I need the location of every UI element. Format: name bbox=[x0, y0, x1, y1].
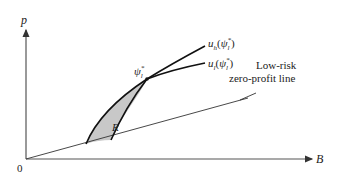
point-psi-star bbox=[145, 77, 149, 81]
x-axis-label: B bbox=[316, 152, 324, 166]
curve-ul-label: ul(ψl*) bbox=[208, 56, 233, 72]
origin-label: 0 bbox=[17, 162, 23, 174]
point-label: ψl* bbox=[134, 64, 145, 80]
region-label: R bbox=[111, 121, 119, 133]
line-label-1: Low-risk bbox=[256, 59, 297, 71]
zero-profit-leader bbox=[240, 93, 256, 100]
line-label-2: zero-profit line bbox=[229, 72, 295, 84]
y-axis-label: p bbox=[20, 13, 27, 27]
diagram-canvas: p B 0 R ψl* uh(ψl*) ul(ψl*) Low-risk zer… bbox=[0, 0, 337, 179]
zero-profit-line bbox=[26, 98, 248, 159]
curve-uh-label: uh(ψl*) bbox=[208, 36, 235, 52]
